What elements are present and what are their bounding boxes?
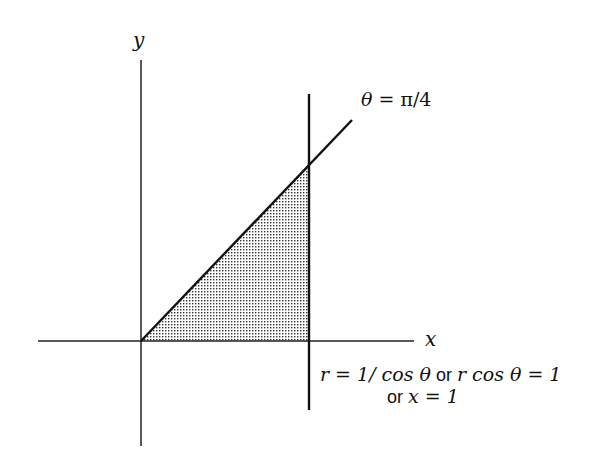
- or-text-2: or: [387, 387, 408, 407]
- theta-symbol: θ: [361, 88, 372, 110]
- polar-equation-2: r cos θ = 1: [457, 363, 562, 385]
- or-text-1: or: [431, 365, 457, 385]
- ray-label: θ = π/4: [361, 88, 431, 110]
- y-axis-label: y: [133, 28, 144, 52]
- x-axis-label: x: [425, 327, 436, 351]
- polar-region-diagram: y x θ = π/4 r = 1/ cos θ or r cos θ = 1 …: [0, 0, 606, 450]
- line-label-row2: or x = 1: [387, 385, 459, 408]
- cartesian-equation: x = 1: [408, 385, 459, 407]
- ray-equation: = π/4: [372, 88, 431, 110]
- line-label-row1: r = 1/ cos θ or r cos θ = 1: [320, 363, 561, 386]
- polar-equation-1: r = 1/ cos θ: [320, 363, 431, 385]
